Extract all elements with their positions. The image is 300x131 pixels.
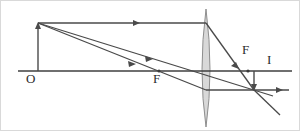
focal-incident-ray (38, 23, 206, 90)
optics-ray-diagram: O F F I (0, 0, 300, 131)
ray-diagram-canvas (1, 1, 300, 131)
arrow-on-refracted-parallel-ray (276, 87, 283, 93)
arrow-on-parallel-ray (133, 20, 140, 26)
focal-point-right-label: F (242, 43, 249, 56)
object-label: O (26, 72, 35, 85)
arrow-on-refracted-through-focus-ray (231, 62, 239, 69)
focal-point-right-dot (246, 69, 249, 72)
image-label: I (267, 53, 271, 66)
focal-point-left-label: F (153, 72, 160, 85)
